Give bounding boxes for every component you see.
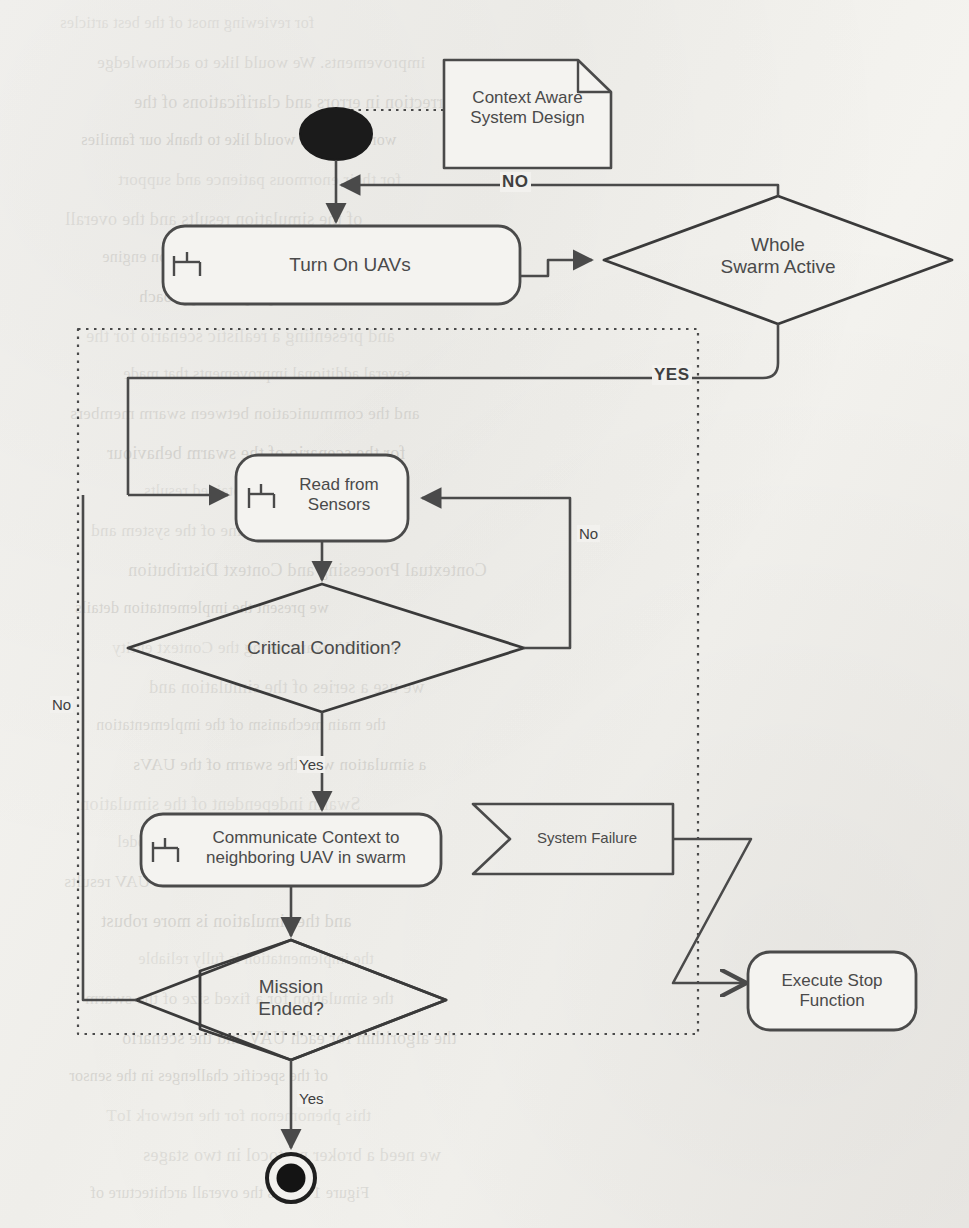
whole-swarm-active-decision — [604, 196, 952, 324]
mission-ended-decision — [200, 940, 446, 1060]
critical-condition-decision — [128, 584, 524, 712]
edge-whole-swarm-no — [348, 185, 778, 196]
initial-node — [300, 108, 372, 160]
mission-ended-decision-shape — [136, 940, 446, 1060]
edge-whole-swarm-yes — [128, 324, 778, 495]
execute-stop-function-activity — [748, 952, 916, 1030]
final-node-core — [277, 1164, 306, 1193]
edge-mission-no — [83, 495, 136, 1000]
mission-loop-region — [78, 329, 698, 1034]
edge-system-failure-to-stop — [673, 839, 751, 983]
edge-turn-on-uavs-to-whole-swarm — [520, 260, 592, 276]
turn-on-uavs-activity — [163, 226, 520, 304]
system-failure-signal — [473, 804, 673, 874]
diagram-page: for reviewing most of the best articlesi… — [0, 0, 969, 1228]
activity-diagram-canvas — [0, 0, 969, 1228]
edge-critical-no — [422, 498, 570, 648]
communicate-context-activity — [141, 814, 441, 886]
context-aware-system-design-note — [444, 60, 611, 168]
read-from-sensors-activity — [236, 455, 408, 541]
